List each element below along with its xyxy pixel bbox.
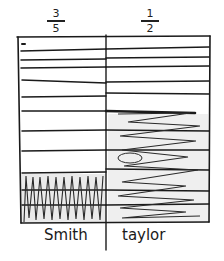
sketch-grid (0, 0, 224, 261)
column-label-smith: Smith (44, 226, 88, 244)
column-label-taylor: taylor (122, 226, 165, 244)
